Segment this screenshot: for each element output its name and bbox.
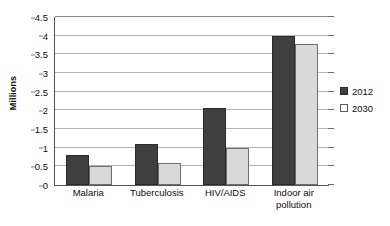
bar [226, 148, 249, 185]
y-axis-tick-mark [31, 92, 35, 93]
x-axis-category-label: Malaria [54, 187, 123, 199]
right-axis-tick-mark [328, 165, 334, 166]
right-axis-tick-mark [328, 128, 334, 129]
right-axis-tick-mark [328, 91, 334, 92]
right-axis-tick-mark [328, 147, 334, 148]
y-axis-tick-label: 4 [43, 30, 48, 41]
bar [135, 144, 158, 185]
y-axis-tick-mark [39, 148, 43, 149]
bar-chart-figure: Millions 00.511.522.533.544.5 MalariaTub… [0, 0, 390, 226]
y-axis-tick-label: 4.5 [35, 12, 48, 23]
legend: 20122030 [340, 84, 388, 118]
y-axis-tick-label: 2.5 [35, 86, 48, 97]
legend-swatch-icon [340, 87, 348, 95]
legend-swatch-icon [340, 104, 348, 112]
bar [203, 108, 226, 185]
category-label-line: Malaria [54, 187, 123, 199]
right-axis-tick-marks [328, 17, 334, 185]
y-axis-tick-mark [39, 36, 43, 37]
y-axis-tick-mark [39, 185, 43, 186]
bar-groups [55, 17, 329, 185]
x-axis-category-label: Tuberculosis [123, 187, 192, 199]
right-axis-tick-mark [328, 184, 334, 185]
y-axis-tick-mark [39, 110, 43, 111]
category-label-line: Indoor air [260, 187, 329, 199]
y-axis-tick-label: 0.5 [35, 161, 48, 172]
y-axis-tick-label: 1 [43, 142, 48, 153]
bar [295, 44, 318, 185]
right-axis-tick-mark [328, 109, 334, 110]
legend-label: 2030 [352, 103, 373, 114]
legend-item: 2030 [340, 101, 388, 115]
y-axis-tick-label: 0 [43, 180, 48, 191]
y-axis-title-label: Millions [8, 76, 18, 110]
y-axis-tick-mark [31, 17, 35, 18]
plot-area [54, 17, 329, 186]
right-axis-tick-mark [328, 53, 334, 54]
y-axis-tick-mark [31, 54, 35, 55]
y-axis-tick-label: 2 [43, 105, 48, 116]
x-axis-category-label: Indoor airpollution [260, 187, 329, 210]
category-label-line: HIV/AIDS [191, 187, 260, 199]
right-axis-tick-mark [328, 35, 334, 36]
right-axis-tick-mark [328, 72, 334, 73]
legend-label: 2012 [352, 86, 373, 97]
bar [66, 155, 89, 185]
y-axis-tick-label: 3 [43, 68, 48, 79]
bar [89, 166, 112, 185]
y-axis-tick-mark [31, 129, 35, 130]
y-axis-tick-label: 1.5 [35, 124, 48, 135]
legend-item: 2012 [340, 84, 388, 98]
y-axis-tick-label: 3.5 [35, 49, 48, 60]
x-axis-category-label: HIV/AIDS [191, 187, 260, 199]
category-label-line: pollution [260, 199, 329, 211]
category-label-line: Tuberculosis [123, 187, 192, 199]
bar [272, 36, 295, 185]
x-axis-category-labels: MalariaTuberculosisHIV/AIDSIndoor airpol… [54, 187, 328, 226]
y-axis-tick-labels: 00.511.522.533.544.5 [22, 17, 51, 185]
y-axis-title: Millions [2, 0, 24, 186]
y-axis-tick-mark [39, 73, 43, 74]
right-axis-tick-mark [328, 16, 334, 17]
bar [158, 163, 181, 185]
y-axis-tick-mark [31, 166, 35, 167]
